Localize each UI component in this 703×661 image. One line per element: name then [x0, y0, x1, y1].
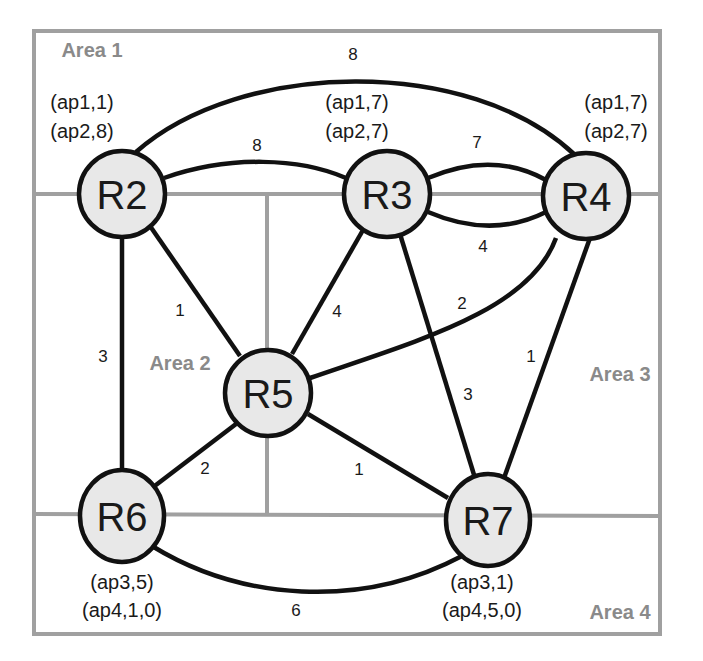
weight-r5-r7: 1	[354, 460, 363, 479]
link-r3-r7	[400, 234, 475, 478]
weight-r2-r3: 8	[252, 136, 261, 155]
weight-r2-r5: 1	[175, 301, 184, 320]
weight-r5-r6: 2	[200, 459, 209, 478]
router-r6: R6	[80, 470, 164, 562]
weight-r3-r4-upper: 7	[472, 133, 481, 152]
weight-r4-r7: 1	[526, 347, 535, 366]
router-r2: R2	[79, 151, 165, 237]
router-r5-label: R5	[242, 372, 293, 416]
ap-label-r6-line2: (ap4,1,0)	[82, 599, 162, 621]
ap-label-r6-line1: (ap3,5)	[90, 571, 153, 593]
area-label-3: Area 3	[589, 363, 650, 385]
router-r2-label: R2	[96, 173, 147, 217]
area-label-1: Area 1	[61, 39, 122, 61]
router-r3: R3	[344, 151, 430, 237]
ap-label-r7-line2: (ap4,5,0)	[442, 599, 522, 621]
weight-r4-r5: 2	[457, 294, 466, 313]
weight-r3-r4-lower: 4	[478, 237, 487, 256]
link-r2-r5	[150, 226, 240, 356]
ap-label-r3-line1: (ap1,7)	[325, 91, 388, 113]
link-r2-r3	[164, 162, 346, 178]
link-r4-r7	[504, 238, 590, 478]
area-label-2: Area 2	[149, 352, 210, 374]
ap-label-r2-line1: (ap1,1)	[50, 91, 113, 113]
link-r6-r7	[152, 546, 462, 592]
weight-r3-r7: 3	[463, 385, 472, 404]
router-r4-label: R4	[560, 175, 611, 219]
router-r7: R7	[446, 474, 530, 566]
router-r4: R4	[543, 153, 629, 239]
link-r3-r5	[292, 230, 363, 354]
router-r7-label: R7	[462, 499, 513, 543]
weight-r2-r6: 3	[98, 347, 107, 366]
weight-r2-r4-top: 8	[348, 45, 357, 64]
link-r5-r7	[308, 414, 448, 498]
router-r6-label: R6	[96, 495, 147, 539]
weight-r6-r7: 6	[291, 601, 300, 620]
ap-label-r4-line1: (ap1,7)	[584, 91, 647, 113]
link-r3-r4-lower	[428, 212, 546, 226]
area-label-4: Area 4	[589, 601, 651, 623]
ap-label-r7-line1: (ap3,1)	[450, 571, 513, 593]
ap-label-r4-line2: (ap2,7)	[584, 120, 647, 142]
ap-label-r2-line2: (ap2,8)	[50, 120, 113, 142]
router-r5: R5	[225, 350, 311, 436]
link-r3-r4-upper	[428, 165, 546, 180]
ap-label-r3-line2: (ap2,7)	[325, 120, 388, 142]
router-r3-label: R3	[361, 173, 412, 217]
link-r5-r6	[152, 424, 236, 488]
network-area-diagram: 8 8 7 4 1 3 4 3 2 1 2 1 6 Area 1 Area 2 …	[0, 0, 703, 661]
weight-r3-r5: 4	[332, 302, 341, 321]
